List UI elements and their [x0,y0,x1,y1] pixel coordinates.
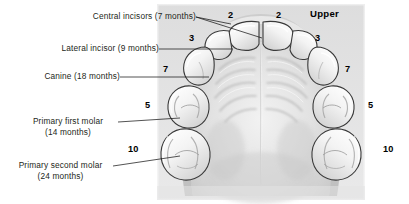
label-primary-first-molar: Primary first molar (14 months) [18,116,118,137]
label-central-incisors: Central incisors (7 months) [62,11,196,22]
arch-title-upper: Upper [310,8,339,19]
label-lateral-incisor-text: Lateral incisor (9 months) [61,43,159,53]
label-primary-first-molar-name: Primary first molar [18,116,118,127]
tooth-primary-second-molar-right [312,129,361,180]
tooth-central-incisor-right [263,21,293,50]
upper-arch-illustration [155,0,367,204]
label-lateral-incisor: Lateral incisor (9 months) [35,43,159,54]
number-second-molar-left: 10 [128,144,139,154]
tooth-primary-first-molar-right [313,86,354,128]
number-second-molar-right: 10 [383,144,394,154]
number-central-incisor-left: 2 [228,10,233,20]
number-first-molar-left: 5 [145,100,150,110]
label-primary-second-molar-name: Primary second molar [8,160,113,171]
label-primary-second-molar: Primary second molar (24 months) [8,160,113,181]
tooth-primary-first-molar-left [168,86,209,128]
dental-eruption-figure: Central incisors (7 months) Lateral inci… [0,0,409,204]
number-first-molar-right: 5 [368,100,373,110]
label-primary-first-molar-age: (14 months) [18,127,118,138]
label-canine: Canine (18 months) [30,71,120,82]
number-central-incisor-right: 2 [276,10,281,20]
number-canine-left: 7 [163,64,168,74]
tooth-primary-second-molar-left [161,129,210,180]
number-canine-right: 7 [345,64,350,74]
number-lateral-incisor-right: 3 [315,33,320,43]
label-primary-second-molar-age: (24 months) [8,171,113,182]
label-canine-text: Canine (18 months) [44,71,120,81]
label-central-incisors-text: Central incisors (7 months) [93,11,196,21]
tooth-central-incisor-left [229,21,259,50]
number-lateral-incisor-left: 3 [189,33,194,43]
